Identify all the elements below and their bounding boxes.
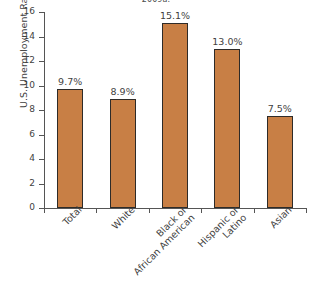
chart-title: 2009a. (0, 0, 312, 4)
bar: 13.0% (214, 49, 240, 208)
y-axis-tick-label: 6 (29, 129, 35, 139)
y-axis-tick-label: 0 (29, 202, 35, 212)
y-axis-tick: 2 (39, 184, 44, 185)
y-axis-tick: 14 (39, 37, 44, 38)
x-axis-tick (44, 208, 45, 213)
bar: 7.5% (267, 116, 293, 208)
y-axis-line (44, 12, 45, 208)
x-axis-tick (201, 208, 202, 213)
x-axis-tick (96, 208, 97, 213)
y-axis-tick-label: 4 (29, 153, 35, 163)
y-axis-title: U.S. Unemployment Rates (18, 0, 29, 131)
bar: 8.9% (110, 99, 136, 208)
bar-value-label: 9.7% (58, 76, 82, 87)
y-axis-tick: 4 (39, 159, 44, 160)
bar-value-label: 15.1% (160, 10, 190, 21)
x-axis-category-line: Total (0, 204, 84, 292)
y-axis-tick-label: 14 (24, 31, 35, 41)
bar: 15.1% (162, 23, 188, 208)
y-axis-tick: 10 (39, 86, 44, 87)
bar-value-label: 7.5% (268, 103, 292, 114)
y-axis-tick: 16 (39, 12, 44, 13)
y-axis-tick-label: 12 (24, 55, 35, 65)
y-axis-tick-label: 8 (29, 104, 35, 114)
bar-chart: 2009a. U.S. Unemployment Rates 024681012… (0, 0, 312, 292)
x-axis-tick (254, 208, 255, 213)
y-axis-tick: 8 (39, 110, 44, 111)
x-axis-tick (149, 208, 150, 213)
y-axis-tick-label: 10 (24, 80, 35, 90)
x-axis-category-label: Total (0, 204, 84, 292)
y-axis-tick-label: 2 (29, 178, 35, 188)
y-axis-tick: 12 (39, 61, 44, 62)
bar: 9.7% (57, 89, 83, 208)
bar-value-label: 13.0% (212, 36, 242, 47)
y-axis-tick: 6 (39, 135, 44, 136)
y-axis-tick-label: 16 (24, 6, 35, 16)
x-axis-tick (306, 208, 307, 213)
plot-area: 0246810121416 9.7%8.9%15.1%13.0%7.5% (44, 12, 306, 208)
bar-value-label: 8.9% (111, 86, 135, 97)
